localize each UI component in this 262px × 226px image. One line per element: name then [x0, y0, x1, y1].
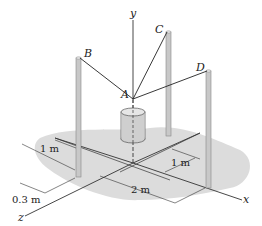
pole-B — [76, 58, 81, 177]
point-label-B: B — [83, 47, 92, 60]
pole-C — [166, 32, 171, 136]
cylinder — [121, 100, 145, 143]
axis-label-z: z — [17, 211, 24, 224]
dimension-label-1m-right: 1 m — [171, 157, 191, 168]
dimension-label-0.3m: 0.3 m — [12, 194, 41, 205]
point-label-D: D — [195, 61, 205, 74]
dimension-label-1m-left: 1 m — [40, 143, 60, 154]
cable-AC — [133, 32, 167, 99]
pole-D — [206, 71, 211, 188]
point-label-A: A — [120, 88, 129, 101]
dimension-label-2m: 2 m — [131, 184, 151, 195]
axis-label-y: y — [129, 7, 137, 20]
diagram-canvas: y x z A B C D 1 m 0.3 m 1 m 2 m — [0, 0, 262, 226]
point-label-C: C — [155, 23, 164, 36]
axis-label-x: x — [243, 193, 250, 206]
